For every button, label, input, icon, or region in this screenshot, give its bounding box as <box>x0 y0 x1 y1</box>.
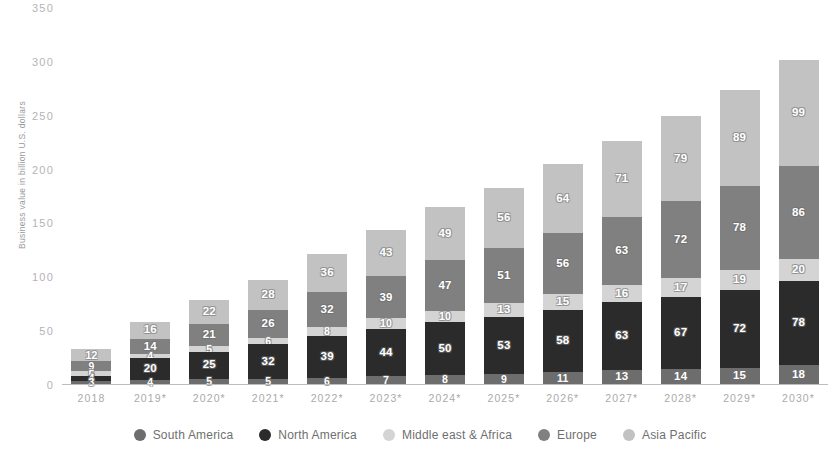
bar-column[interactable]: 28266325 <box>239 8 298 384</box>
bar-column[interactable]: 7163166313 <box>592 8 651 384</box>
bar-segment[interactable]: 32 <box>307 292 347 326</box>
bar-segment[interactable]: 63 <box>602 217 642 285</box>
bar-segment-value: 14 <box>674 371 687 383</box>
legend-item[interactable]: Asia Pacific <box>623 428 706 442</box>
bar-segment[interactable]: 78 <box>779 281 819 365</box>
bar-segment-value: 21 <box>203 329 216 341</box>
bar-segment-value: 18 <box>792 369 805 381</box>
bar-segment[interactable]: 15 <box>720 368 760 384</box>
bar-segment[interactable]: 63 <box>602 302 642 370</box>
bar-column[interactable]: 22215255 <box>180 8 239 384</box>
stacked-bar[interactable]: 22215255 <box>189 300 229 384</box>
bar-segment[interactable]: 72 <box>720 290 760 368</box>
legend-item[interactable]: North America <box>259 428 357 442</box>
bar-segment[interactable]: 32 <box>248 344 288 378</box>
y-axis-tick-label: 200 <box>32 164 54 176</box>
bar-segment[interactable]: 44 <box>366 329 406 376</box>
stacked-bar[interactable]: 7163166313 <box>602 141 642 384</box>
bar-segment[interactable]: 51 <box>484 248 524 303</box>
stacked-bar[interactable]: 36328396 <box>307 254 347 384</box>
bar-segment[interactable]: 89 <box>720 90 760 186</box>
stacked-bar[interactable]: 565113539 <box>484 188 524 384</box>
bar-segment[interactable]: 71 <box>602 141 642 217</box>
bar-column[interactable]: 8978197215 <box>710 8 769 384</box>
stacked-bar[interactable]: 6456155811 <box>543 164 583 384</box>
bar-segment-value: 63 <box>615 245 628 257</box>
x-axis-tick-label: 2020* <box>180 392 239 404</box>
legend-item[interactable]: Middle east & Africa <box>383 428 512 442</box>
bar-segment[interactable]: 72 <box>661 201 701 279</box>
bar-segment-value: 32 <box>321 304 334 316</box>
bar-column[interactable]: 7972176714 <box>651 8 710 384</box>
bar-segment[interactable]: 56 <box>543 233 583 293</box>
bar-column[interactable]: 9986207818 <box>769 8 828 384</box>
bar-segment[interactable]: 58 <box>543 310 583 372</box>
x-axis-tick-label: 2025* <box>474 392 533 404</box>
legend-item[interactable]: Europe <box>538 428 597 442</box>
bar-segment[interactable]: 16 <box>130 322 170 339</box>
bar-column[interactable]: 36328396 <box>298 8 357 384</box>
bar-segment[interactable]: 28 <box>248 280 288 310</box>
stacked-bar[interactable]: 129543 <box>71 349 111 385</box>
bar-segment[interactable]: 53 <box>484 317 524 374</box>
bar-segment[interactable]: 14 <box>661 369 701 384</box>
bar-column[interactable]: 16144204 <box>121 8 180 384</box>
bar-segment[interactable]: 39 <box>366 276 406 318</box>
x-axis-tick-label: 2026* <box>533 392 592 404</box>
bar-segment[interactable]: 26 <box>248 310 288 338</box>
bar-segment[interactable]: 15 <box>543 294 583 310</box>
legend-label: Europe <box>557 428 597 442</box>
bar-segment[interactable]: 11 <box>543 372 583 384</box>
bar-segment[interactable]: 22 <box>189 300 229 324</box>
bar-segment[interactable]: 9 <box>484 374 524 384</box>
bar-segment[interactable]: 13 <box>484 303 524 317</box>
bar-segment[interactable]: 10 <box>366 318 406 329</box>
bar-segment[interactable]: 8 <box>425 375 465 384</box>
bar-segment[interactable]: 43 <box>366 230 406 276</box>
bar-segment[interactable]: 10 <box>425 311 465 322</box>
bar-segment[interactable]: 16 <box>602 285 642 302</box>
bar-segment[interactable]: 20 <box>779 259 819 281</box>
bar-column[interactable]: 433910447 <box>357 8 416 384</box>
bar-column[interactable]: 494710508 <box>416 8 475 384</box>
stacked-bar[interactable]: 433910447 <box>366 230 406 384</box>
bar-segment[interactable]: 99 <box>779 60 819 167</box>
bar-segment-value: 72 <box>674 234 687 246</box>
x-axis-labels: 20182019*2020*2021*2022*2023*2024*2025*2… <box>62 392 828 404</box>
stacked-bar[interactable]: 494710508 <box>425 207 465 384</box>
bar-segment[interactable]: 49 <box>425 207 465 260</box>
bar-segment[interactable]: 36 <box>307 254 347 293</box>
bar-segment[interactable]: 19 <box>720 270 760 290</box>
bar-segment[interactable]: 86 <box>779 166 819 259</box>
stacked-bar[interactable]: 9986207818 <box>779 60 819 384</box>
stacked-bar[interactable]: 28266325 <box>248 280 288 384</box>
bar-segment-value: 13 <box>497 304 510 316</box>
bar-segment[interactable]: 79 <box>661 116 701 201</box>
stacked-bar[interactable]: 8978197215 <box>720 90 760 384</box>
legend-swatch-icon <box>383 429 395 441</box>
bar-segment[interactable]: 67 <box>661 297 701 369</box>
bar-column[interactable]: 6456155811 <box>533 8 592 384</box>
bar-column[interactable]: 129543 <box>62 8 121 384</box>
stacked-bar[interactable]: 16144204 <box>130 322 170 384</box>
x-axis-tick-label: 2018 <box>62 392 121 404</box>
bar-segment-value: 67 <box>674 327 687 339</box>
bar-segment[interactable]: 8 <box>307 327 347 336</box>
x-axis-tick-label: 2029* <box>710 392 769 404</box>
bar-segment-value: 16 <box>615 288 628 300</box>
x-axis-tick-label: 2030* <box>769 392 828 404</box>
stacked-bar[interactable]: 7972176714 <box>661 116 701 384</box>
legend-item[interactable]: South America <box>134 428 234 442</box>
bar-segment[interactable]: 56 <box>484 188 524 248</box>
bar-segment[interactable]: 47 <box>425 260 465 311</box>
bar-segment[interactable]: 39 <box>307 336 347 378</box>
bar-segment[interactable]: 64 <box>543 164 583 233</box>
bar-segment[interactable]: 17 <box>661 278 701 296</box>
bar-segment[interactable]: 7 <box>366 376 406 384</box>
bar-segment[interactable]: 50 <box>425 322 465 376</box>
bar-segment[interactable]: 18 <box>779 365 819 384</box>
bar-column[interactable]: 565113539 <box>474 8 533 384</box>
bar-segment[interactable]: 13 <box>602 370 642 384</box>
bar-segment-value: 13 <box>615 371 628 383</box>
bar-segment[interactable]: 78 <box>720 186 760 270</box>
